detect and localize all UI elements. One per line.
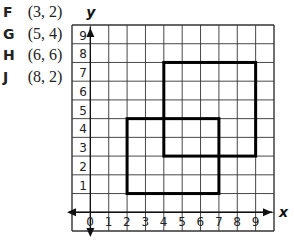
coordinate-grid: 0123456789123456789 x y [0,0,294,245]
x-axis-label: x [278,204,289,220]
y-tick-label: 7 [79,66,87,80]
upper-right-rectangle [164,62,256,156]
y-tick-label: 6 [79,85,87,99]
x-tick-label: 1 [105,215,113,229]
y-tick-label: 9 [79,29,87,43]
x-tick-label: 2 [123,215,131,229]
y-axis-arrow-up-icon [86,28,94,37]
y-tick-label: 1 [79,179,87,193]
x-tick-label: 5 [178,215,186,229]
y-axis-label: y [86,4,96,20]
y-tick-label: 3 [79,141,87,155]
x-tick-label: 7 [215,215,223,229]
tick-labels: 0123456789123456789 [79,29,259,230]
x-tick-label: 9 [252,215,260,229]
y-axis-arrow-down-icon [86,228,94,237]
y-tick-label: 8 [79,47,87,61]
y-tick-label: 5 [79,104,87,118]
x-tick-label: 8 [233,215,241,229]
grid-lines [72,25,274,231]
rectangles [127,62,256,193]
x-tick-label: 6 [197,215,205,229]
axes [67,27,272,237]
x-tick-label: 0 [86,215,94,229]
y-tick-label: 2 [79,160,87,174]
x-tick-label: 3 [141,215,149,229]
x-axis-arrow-right-icon [263,208,272,216]
y-tick-label: 4 [79,122,87,136]
x-tick-label: 4 [160,215,168,229]
